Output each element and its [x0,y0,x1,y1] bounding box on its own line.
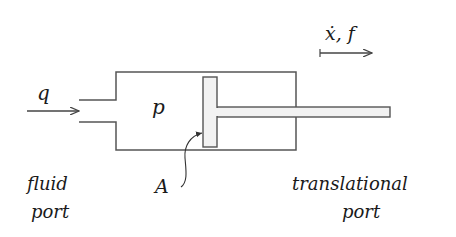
pressure-label: p [152,95,165,119]
piston-rod [217,107,390,117]
area-label: A [153,175,169,197]
piston-head [203,77,217,147]
fluid-port-label-line1: fluid [25,173,68,194]
translational-port-label-line1: translational [292,173,408,194]
velocity-force-arrow-icon [320,49,372,57]
translational-port-label-line2: port [342,201,381,222]
area-pointer-icon [181,133,202,187]
flow-label: q [37,81,50,105]
fluid-port-label-line2: port [31,201,70,222]
velocity-force-label: ẋ, f [325,22,358,44]
hydraulic-cylinder-diagram: q p A ẋ, f fluid port translational port [0,0,456,237]
